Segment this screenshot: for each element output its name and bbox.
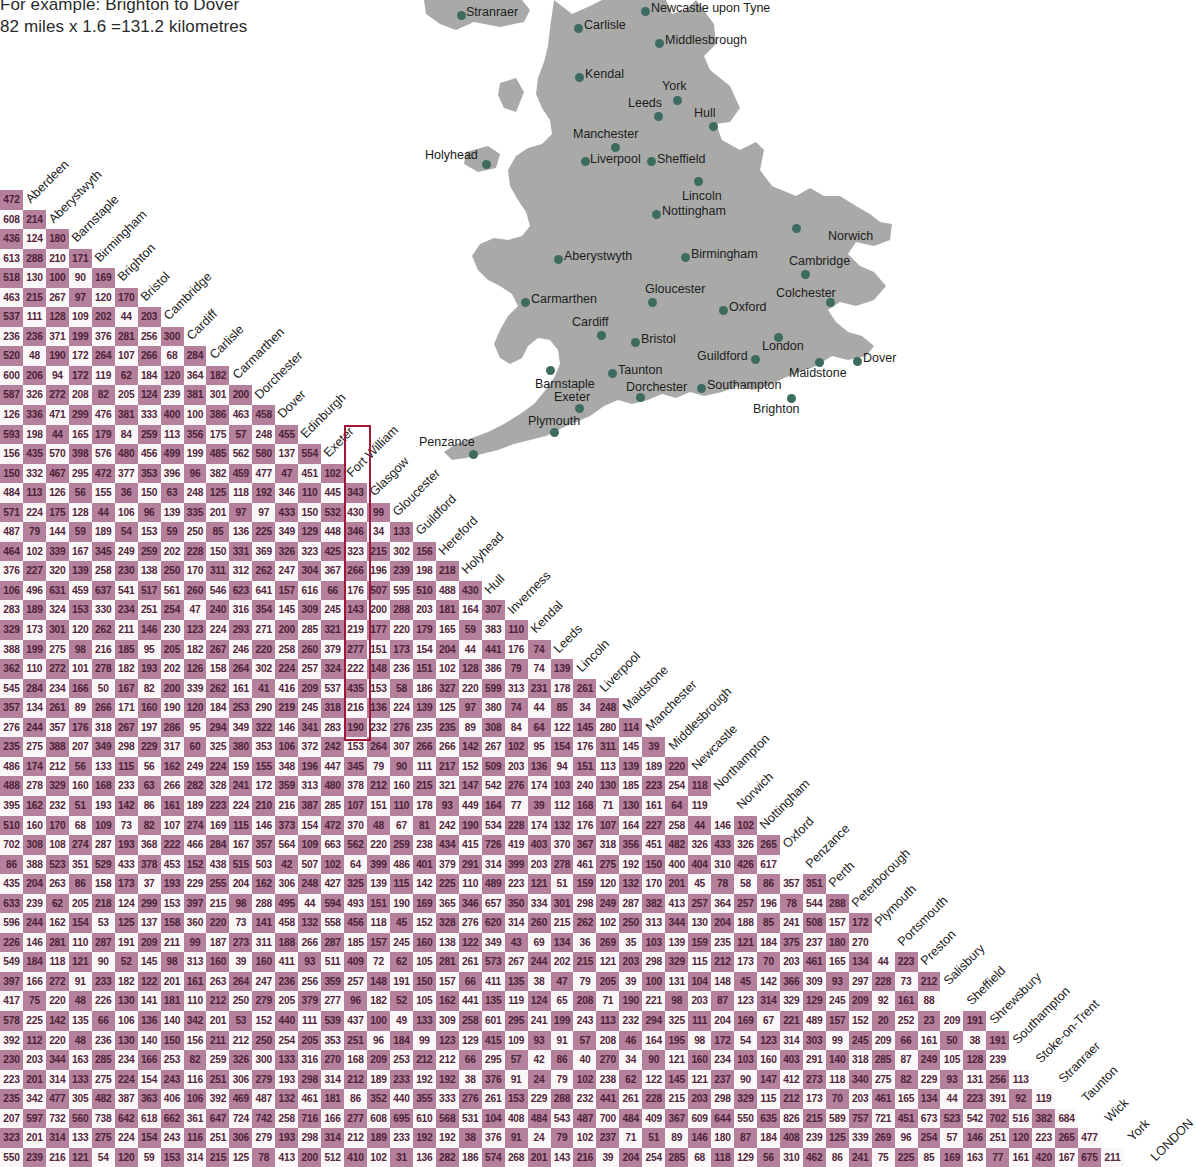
- distance-cell[interactable]: 510: [413, 581, 436, 601]
- distance-cell[interactable]: 647: [206, 1109, 229, 1129]
- distance-cell[interactable]: 493: [344, 894, 367, 914]
- distance-cell[interactable]: 63: [138, 776, 161, 796]
- distance-cell[interactable]: 138: [138, 561, 161, 581]
- distance-cell[interactable]: 162: [436, 991, 459, 1011]
- distance-cell[interactable]: 541: [115, 581, 138, 601]
- distance-cell[interactable]: 532: [321, 503, 344, 523]
- distance-cell[interactable]: 334: [528, 894, 551, 914]
- distance-cell[interactable]: 215: [23, 288, 46, 308]
- distance-cell[interactable]: 726: [482, 835, 505, 855]
- distance-cell[interactable]: 419: [505, 835, 528, 855]
- distance-cell[interactable]: 36: [573, 933, 596, 953]
- distance-cell[interactable]: 130: [115, 991, 138, 1011]
- distance-cell[interactable]: 256: [138, 327, 161, 347]
- distance-cell[interactable]: 85: [918, 1148, 941, 1167]
- distance-cell[interactable]: 282: [184, 776, 207, 796]
- distance-cell[interactable]: 164: [642, 1031, 665, 1051]
- distance-cell[interactable]: 264: [229, 972, 252, 992]
- distance-cell[interactable]: 301: [206, 385, 229, 405]
- distance-cell[interactable]: 134: [23, 698, 46, 718]
- distance-cell[interactable]: 412: [780, 1070, 803, 1090]
- distance-cell[interactable]: 78: [711, 874, 734, 894]
- distance-cell[interactable]: 203: [23, 1050, 46, 1070]
- distance-cell[interactable]: 463: [229, 405, 252, 425]
- distance-cell[interactable]: 399: [367, 855, 390, 875]
- distance-cell[interactable]: 518: [0, 268, 23, 288]
- distance-cell[interactable]: 308: [23, 835, 46, 855]
- distance-cell[interactable]: 477: [1078, 1128, 1101, 1148]
- distance-cell[interactable]: 266: [138, 346, 161, 366]
- distance-cell[interactable]: 233: [390, 1070, 413, 1090]
- distance-cell[interactable]: 172: [69, 366, 92, 386]
- distance-cell[interactable]: 311: [206, 561, 229, 581]
- distance-cell[interactable]: 160: [206, 952, 229, 972]
- distance-cell[interactable]: 45: [688, 874, 711, 894]
- distance-cell[interactable]: 248: [298, 874, 321, 894]
- distance-cell[interactable]: 301: [551, 894, 574, 914]
- distance-cell[interactable]: 152: [849, 1011, 872, 1031]
- distance-cell[interactable]: 308: [482, 718, 505, 738]
- distance-cell[interactable]: 110: [184, 991, 207, 1011]
- distance-cell[interactable]: 90: [734, 1070, 757, 1090]
- distance-cell[interactable]: 564: [275, 835, 298, 855]
- distance-cell[interactable]: 137: [138, 913, 161, 933]
- distance-cell[interactable]: 196: [757, 894, 780, 914]
- distance-cell[interactable]: 211: [161, 933, 184, 953]
- distance-cell[interactable]: 212: [367, 776, 390, 796]
- distance-cell[interactable]: 600: [0, 366, 23, 386]
- distance-cell[interactable]: 369: [252, 542, 275, 562]
- distance-cell[interactable]: 153: [161, 1148, 184, 1167]
- distance-cell[interactable]: 291: [459, 855, 482, 875]
- distance-cell[interactable]: 193: [92, 796, 115, 816]
- distance-cell[interactable]: 23: [918, 1011, 941, 1031]
- distance-cell[interactable]: 293: [229, 620, 252, 640]
- distance-cell[interactable]: 314: [780, 1031, 803, 1051]
- distance-cell[interactable]: 86: [551, 1050, 574, 1070]
- distance-cell[interactable]: 100: [367, 1011, 390, 1031]
- distance-cell[interactable]: 148: [711, 972, 734, 992]
- distance-cell[interactable]: 239: [23, 1148, 46, 1167]
- distance-cell[interactable]: 391: [986, 1089, 1009, 1109]
- distance-cell[interactable]: 49: [390, 1011, 413, 1031]
- distance-cell[interactable]: 406: [161, 1089, 184, 1109]
- distance-cell[interactable]: 466: [184, 835, 207, 855]
- distance-cell[interactable]: 249: [115, 542, 138, 562]
- distance-cell[interactable]: 124: [23, 229, 46, 249]
- distance-cell[interactable]: 721: [872, 1109, 895, 1129]
- distance-cell[interactable]: 695: [390, 1109, 413, 1129]
- distance-cell[interactable]: 151: [367, 796, 390, 816]
- distance-cell[interactable]: 225: [895, 1148, 918, 1167]
- distance-cell[interactable]: 205: [115, 385, 138, 405]
- distance-cell[interactable]: 489: [803, 1011, 826, 1031]
- distance-cell[interactable]: 233: [390, 1128, 413, 1148]
- distance-cell[interactable]: 382: [1032, 1109, 1055, 1129]
- distance-cell[interactable]: 523: [46, 855, 69, 875]
- distance-cell[interactable]: 62: [115, 366, 138, 386]
- distance-cell[interactable]: 136: [229, 522, 252, 542]
- distance-cell[interactable]: 211: [115, 620, 138, 640]
- distance-cell[interactable]: 68: [688, 1148, 711, 1167]
- distance-cell[interactable]: 416: [275, 679, 298, 699]
- distance-cell[interactable]: 256: [986, 1070, 1009, 1090]
- distance-cell[interactable]: 239: [986, 1050, 1009, 1070]
- distance-cell[interactable]: 105: [413, 952, 436, 972]
- distance-cell[interactable]: 193: [115, 835, 138, 855]
- distance-cell[interactable]: 160: [757, 1050, 780, 1070]
- distance-cell[interactable]: 333: [138, 405, 161, 425]
- distance-cell[interactable]: 400: [161, 405, 184, 425]
- distance-cell[interactable]: 235: [0, 737, 23, 757]
- distance-cell[interactable]: 345: [92, 542, 115, 562]
- distance-cell[interactable]: 489: [482, 874, 505, 894]
- distance-cell[interactable]: 102: [734, 816, 757, 836]
- distance-cell[interactable]: 162: [252, 874, 275, 894]
- distance-cell[interactable]: 189: [184, 796, 207, 816]
- distance-cell[interactable]: 111: [23, 307, 46, 327]
- distance-cell[interactable]: 291: [803, 1050, 826, 1070]
- distance-cell[interactable]: 486: [0, 757, 23, 777]
- distance-cell[interactable]: 122: [642, 1070, 665, 1090]
- distance-cell[interactable]: 228: [184, 542, 207, 562]
- distance-cell[interactable]: 48: [23, 346, 46, 366]
- distance-cell[interactable]: 102: [321, 464, 344, 484]
- distance-cell[interactable]: 243: [161, 1070, 184, 1090]
- distance-cell[interactable]: 115: [390, 874, 413, 894]
